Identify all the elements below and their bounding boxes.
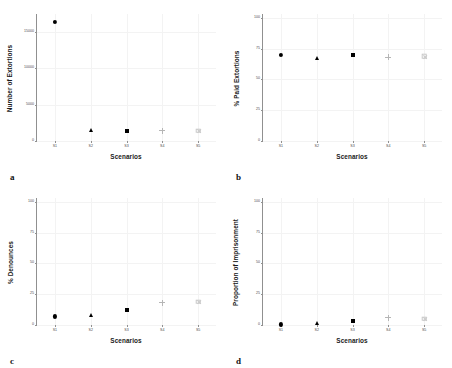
x-tick-mark	[317, 141, 318, 143]
gridline-vertical	[91, 198, 92, 325]
x-tick-mark	[55, 325, 56, 327]
y-tick-mark	[35, 105, 37, 106]
x-tick-mark	[424, 141, 425, 143]
x-tick-mark	[198, 141, 199, 143]
x-tick-mark	[353, 141, 354, 143]
x-tick-label: S1	[279, 145, 283, 149]
x-tick-label: S2	[314, 145, 318, 149]
plot-area-c: 0255075100S1S2S3S4S5	[36, 198, 216, 326]
data-point-square	[125, 308, 129, 312]
gridline-vertical	[55, 14, 56, 141]
y-tick-mark	[261, 325, 263, 326]
gridline-vertical	[424, 198, 425, 325]
panel-letter-b: b	[236, 172, 241, 182]
gridline-vertical	[127, 14, 128, 141]
y-tick-mark	[261, 294, 263, 295]
gridline-vertical	[55, 198, 56, 325]
x-tick-mark	[424, 325, 425, 327]
gridline-vertical	[353, 198, 354, 325]
panel-a: Number of Extortions 050001000015000S1S2…	[0, 0, 226, 184]
gridline-vertical	[162, 198, 163, 325]
gridline-vertical	[91, 14, 92, 141]
y-tick-label: 10000	[24, 67, 34, 71]
data-point-triangle	[315, 321, 319, 325]
data-point-square	[125, 129, 129, 133]
x-tick-mark	[162, 141, 163, 143]
x-tick-mark	[91, 325, 92, 327]
y-axis-title-d: Proportion of Imprisonment	[230, 198, 242, 326]
panel-b: % Paid Extortions 0255075100S1S2S3S4S5 S…	[226, 0, 452, 184]
data-point-triangle	[89, 128, 93, 132]
x-tick-label: S5	[422, 329, 426, 333]
data-point-circle	[53, 314, 57, 318]
y-tick-label: 75	[256, 47, 260, 51]
gridline-vertical	[388, 14, 389, 141]
x-tick-mark	[353, 325, 354, 327]
plot-area-d: 0255075100S1S2S3S4S5	[262, 198, 442, 326]
x-tick-mark	[127, 141, 128, 143]
y-tick-mark	[35, 263, 37, 264]
data-point-boxx	[422, 54, 427, 59]
data-point-plus	[385, 315, 391, 321]
x-tick-label: S2	[88, 145, 92, 149]
y-tick-label: 75	[30, 231, 34, 235]
y-tick-label: 50	[256, 78, 260, 82]
x-axis-title-c: Scenarios	[36, 337, 216, 344]
data-point-plus	[385, 54, 391, 60]
plot-area-b: 0255075100S1S2S3S4S5	[262, 14, 442, 142]
x-tick-label: S3	[124, 329, 128, 333]
x-tick-label: S5	[196, 329, 200, 333]
gridline-vertical	[317, 198, 318, 325]
x-tick-label: S3	[350, 329, 354, 333]
y-tick-mark	[35, 32, 37, 33]
x-axis-title-d: Scenarios	[262, 337, 442, 344]
x-tick-label: S3	[124, 145, 128, 149]
figure-panel-grid: Number of Extortions 050001000015000S1S2…	[0, 0, 452, 368]
x-tick-mark	[127, 325, 128, 327]
y-tick-label: 0	[258, 323, 260, 327]
panel-letter-a: a	[10, 172, 15, 182]
gridline-vertical	[281, 198, 282, 325]
panel-d: Proportion of Imprisonment 0255075100S1S…	[226, 184, 452, 368]
panel-letter-c: c	[10, 356, 14, 366]
x-tick-label: S1	[53, 329, 57, 333]
data-point-triangle	[315, 56, 319, 60]
y-tick-label: 100	[28, 200, 34, 204]
x-tick-label: S5	[196, 145, 200, 149]
y-tick-mark	[35, 294, 37, 295]
plot-area-a: 050001000015000S1S2S3S4S5	[36, 14, 216, 142]
y-tick-label: 0	[32, 139, 34, 143]
y-tick-label: 100	[254, 16, 260, 20]
y-tick-mark	[35, 325, 37, 326]
x-tick-label: S3	[350, 145, 354, 149]
y-tick-label: 50	[30, 262, 34, 266]
y-tick-label: 100	[254, 200, 260, 204]
gridline-vertical	[281, 14, 282, 141]
gridline-vertical	[198, 198, 199, 325]
gridline-vertical	[388, 198, 389, 325]
gridline-vertical	[317, 14, 318, 141]
y-tick-label: 75	[256, 231, 260, 235]
x-tick-label: S1	[53, 145, 57, 149]
y-tick-mark	[261, 202, 263, 203]
y-tick-label: 50	[256, 262, 260, 266]
x-tick-label: S2	[88, 329, 92, 333]
x-tick-mark	[281, 141, 282, 143]
data-point-triangle	[89, 313, 93, 317]
x-tick-mark	[198, 325, 199, 327]
gridline-vertical	[162, 14, 163, 141]
x-tick-label: S4	[160, 145, 164, 149]
x-tick-label: S2	[314, 329, 318, 333]
data-point-boxx	[196, 299, 201, 304]
data-point-circle	[53, 20, 57, 24]
y-tick-label: 25	[256, 108, 260, 112]
y-tick-mark	[261, 263, 263, 264]
y-tick-label: 0	[32, 323, 34, 327]
y-tick-mark	[261, 49, 263, 50]
y-axis-title-b: % Paid Extortions	[230, 14, 242, 142]
x-tick-label: S1	[279, 329, 283, 333]
y-tick-mark	[35, 68, 37, 69]
data-point-plus	[159, 128, 165, 134]
panel-letter-d: d	[236, 356, 241, 366]
x-tick-label: S5	[422, 145, 426, 149]
